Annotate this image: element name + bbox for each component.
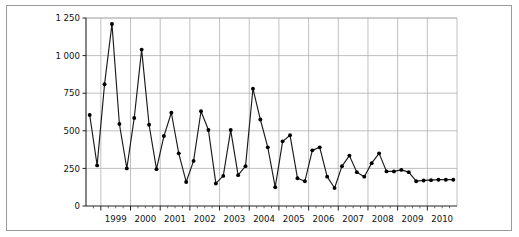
x-tick-label: 2005 — [283, 214, 305, 224]
y-tick-label: 1 000 — [55, 51, 80, 61]
x-tick-label: 2010 — [431, 214, 453, 224]
y-tick-label: 0 — [75, 201, 80, 211]
axis-lines — [86, 18, 457, 206]
y-tick-label: 500 — [64, 126, 80, 136]
axis-ticks — [83, 18, 450, 211]
data-series-line — [90, 24, 454, 188]
grid-lines — [86, 18, 457, 206]
x-tick-label: 2002 — [194, 214, 216, 224]
x-tick-label: 1999 — [105, 214, 127, 224]
y-tick-label: 250 — [64, 164, 80, 174]
y-tick-label: 1 250 — [55, 13, 80, 23]
y-axis-tick-labels: 02505007501 0001 250 — [55, 13, 80, 211]
x-tick-label: 2004 — [253, 214, 275, 224]
x-tick-label: 2000 — [134, 214, 156, 224]
x-tick-label: 2006 — [313, 214, 335, 224]
x-tick-label: 2003 — [223, 214, 245, 224]
x-tick-label: 2007 — [342, 214, 364, 224]
chart-frame: 02505007501 0001 250 1999200020012002200… — [6, 5, 512, 231]
y-tick-label: 750 — [64, 88, 80, 98]
line-chart: 02505007501 0001 250 1999200020012002200… — [7, 6, 511, 230]
x-tick-label: 2001 — [164, 214, 186, 224]
chart-figure: 02505007501 0001 250 1999200020012002200… — [0, 0, 519, 237]
x-tick-label: 2008 — [372, 214, 394, 224]
x-axis-tick-labels: 1999200020012002200320042005200620072008… — [105, 214, 453, 224]
x-tick-label: 2009 — [402, 214, 424, 224]
